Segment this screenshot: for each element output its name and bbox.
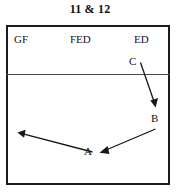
horizontal-divider-line xyxy=(6,74,170,75)
point-label-c: C xyxy=(129,55,136,67)
point-label-b: B xyxy=(151,112,158,124)
figure-root: 11 & 12 GF FED ED C B A xyxy=(0,0,180,192)
point-label-a: A xyxy=(84,145,92,157)
figure-title: 11 & 12 xyxy=(0,1,180,17)
region-label-fed: FED xyxy=(70,33,91,45)
region-label-gf: GF xyxy=(14,33,28,45)
diagram-frame xyxy=(6,25,170,185)
region-label-ed: ED xyxy=(134,33,149,45)
